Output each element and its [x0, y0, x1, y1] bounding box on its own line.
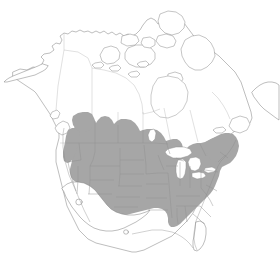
greenland-edge-outline [252, 82, 279, 120]
state-line-nc-sc [200, 206, 211, 217]
north-america-map [0, 0, 280, 271]
great-basin-spot [76, 199, 82, 205]
interior-spot-two [124, 230, 129, 234]
range-map-figure: North America Distribution Map Shaded ra… [0, 0, 280, 271]
south-florida-exclusion-zone [193, 221, 206, 251]
